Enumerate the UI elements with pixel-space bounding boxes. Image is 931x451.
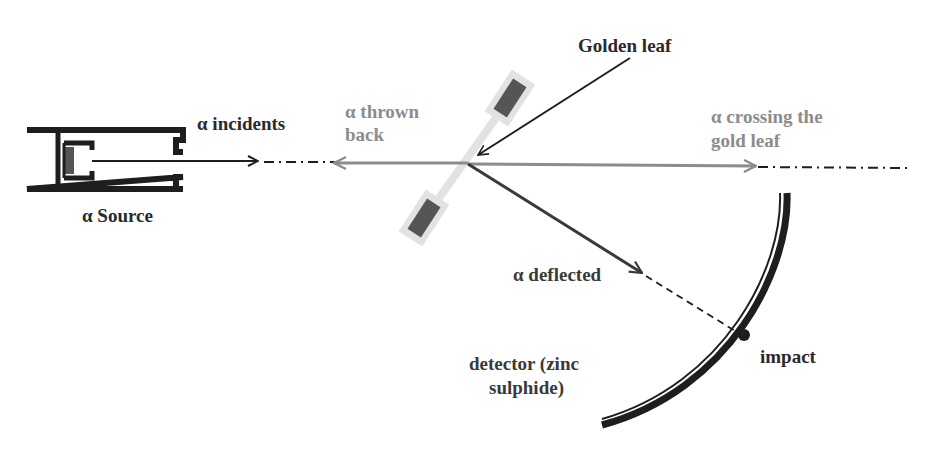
thrown-back-label-line1: α thrown bbox=[345, 101, 419, 123]
deflected-dashed bbox=[646, 276, 740, 334]
gold-leaf-icon bbox=[399, 69, 536, 246]
deflected-label: α deflected bbox=[513, 264, 601, 286]
thrown-back-label-line2: back bbox=[345, 124, 384, 146]
crossing-label-line1: α crossing the bbox=[711, 106, 823, 128]
diagram-canvas: α Source α incidents α thrown back Golde… bbox=[0, 0, 931, 451]
golden-leaf-label: Golden leaf bbox=[578, 35, 671, 57]
detector-label-line1: detector (zinc bbox=[469, 353, 579, 375]
deflected-ray bbox=[468, 164, 642, 273]
impact-label: impact bbox=[760, 346, 816, 368]
crossing-ray bbox=[468, 164, 756, 166]
impact-point-icon bbox=[738, 329, 750, 341]
crossing-label-line2: gold leaf bbox=[711, 130, 780, 152]
alpha-source-icon bbox=[27, 130, 183, 189]
crossing-dashdot bbox=[758, 167, 908, 168]
detector-screen-icon bbox=[602, 193, 787, 425]
detector-label-line2: sulphide) bbox=[489, 377, 564, 399]
alpha-source-label: α Source bbox=[82, 205, 153, 227]
alpha-incidents-label: α incidents bbox=[197, 113, 285, 135]
